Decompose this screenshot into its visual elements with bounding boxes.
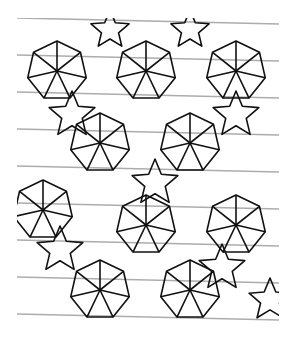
wheel-spoke (44, 71, 57, 98)
lattice-line (17, 203, 279, 209)
star-shape (249, 278, 291, 318)
wheel-spoke (236, 206, 259, 225)
wheel-spoke (161, 290, 190, 297)
wheel-spoke (207, 225, 236, 232)
star-shape (132, 159, 178, 202)
lattice-line (17, 129, 279, 135)
wheel-spoke (177, 143, 190, 170)
tiling-shapes (14, 10, 291, 320)
wheel-spoke (117, 225, 146, 232)
lattice-line (17, 18, 279, 24)
wheel-spoke (43, 191, 66, 210)
wheel-spoke (133, 71, 146, 98)
lattice-line (17, 240, 279, 246)
lattice-line (17, 166, 279, 172)
star-shape (91, 10, 129, 46)
wheel-spoke (190, 290, 219, 297)
wheel-spoke (100, 143, 129, 150)
wheel-spoke (190, 143, 203, 170)
wheel-spoke (213, 206, 236, 225)
wheel-spoke (236, 52, 259, 71)
wheel-spoke (71, 143, 100, 150)
wheel-spoke (117, 71, 146, 78)
wheel-spoke (190, 143, 219, 150)
wheel-spoke (190, 290, 203, 317)
wheel-spoke (146, 71, 159, 98)
wheel-spoke (14, 210, 43, 217)
lattice-line (17, 92, 279, 98)
wheel-spoke (87, 143, 100, 170)
wheel-spoke (43, 210, 72, 217)
wheel-spoke (57, 71, 86, 78)
wheel-spoke (100, 143, 113, 170)
wheel-spoke (57, 71, 70, 98)
wheel-spoke (236, 225, 249, 252)
wheel-spoke (146, 71, 175, 78)
wheel-spoke (146, 225, 175, 232)
wheel-spoke (133, 225, 146, 252)
lattice-line (17, 314, 279, 320)
wheel-spoke (161, 143, 190, 150)
wheel-spoke (71, 290, 100, 297)
lattice-line (17, 277, 279, 283)
wheel-spoke (57, 52, 80, 71)
wheel-spoke (20, 191, 43, 210)
wheel-spoke (28, 71, 57, 78)
wheel-spoke (43, 210, 56, 237)
wheel-spoke (77, 124, 100, 143)
wheel-spoke (223, 225, 236, 252)
wheel-spoke (146, 225, 159, 252)
wheel-spoke (87, 290, 100, 317)
tiling-pattern (0, 0, 292, 338)
wheel-spoke (146, 52, 169, 71)
wheel-spoke (146, 206, 169, 225)
wheel-spoke (123, 206, 146, 225)
wheel-spoke (100, 290, 113, 317)
wheel-spoke (100, 271, 123, 290)
wheel-spoke (207, 71, 236, 78)
wheel-spoke (177, 290, 190, 317)
wheel-spoke (236, 225, 265, 232)
wheel-spoke (100, 290, 129, 297)
wheel-spoke (236, 71, 265, 78)
wheel-spoke (30, 210, 43, 237)
wheel-spoke (213, 52, 236, 71)
wheel-spoke (100, 124, 123, 143)
wheel-spoke (123, 52, 146, 71)
star-shape (171, 10, 209, 46)
wheel-spoke (77, 271, 100, 290)
